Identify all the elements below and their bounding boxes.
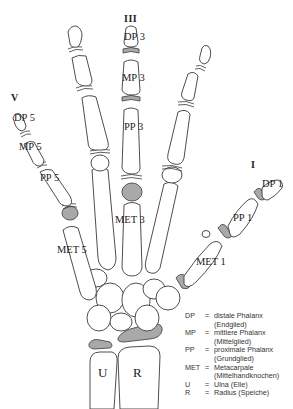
legend-abbr: PP (185, 346, 205, 363)
label-mp5: MP 5 (19, 141, 42, 152)
mp2-bone (182, 72, 199, 100)
dp2-bone (200, 45, 211, 64)
legend-equals: = (205, 312, 214, 329)
legend-text: Radius (Speiche) (214, 389, 293, 398)
met5-bone (63, 226, 96, 300)
label-dp1: DP 1 (262, 178, 283, 189)
numeral-little-finger: V (11, 92, 19, 103)
label-pp3: PP 3 (124, 121, 143, 132)
label-met3: MET 3 (115, 214, 145, 225)
label-dp3: DP 3 (124, 31, 145, 42)
legend-equals: = (205, 364, 214, 381)
legend-row-pp: PP = proximale Phalanx (Grundglied) (185, 346, 293, 363)
label-met5: MET 5 (57, 244, 87, 255)
pp3-bone (122, 108, 140, 174)
label-radius: R (133, 365, 142, 380)
finger-1 (176, 180, 283, 289)
legend-equals: = (205, 329, 214, 346)
met2-bone (145, 182, 178, 273)
label-ulna: U (98, 365, 108, 380)
met4-bone (92, 167, 116, 270)
legend-abbr: R (185, 389, 205, 398)
legend-row-mp: MP = mittlere Phalanx (Mittelglied) (185, 329, 293, 346)
label-dp5: DP 5 (14, 112, 35, 123)
numeral-thumb: I (251, 159, 255, 170)
legend: DP = distale Phalanx (Endglied) MP = mit… (185, 312, 293, 398)
pp3-epiphysis-plate (122, 96, 140, 102)
carpal-bones (85, 269, 180, 331)
mp3-epiphysis-plate (123, 48, 139, 54)
finger-3 (121, 26, 142, 276)
legend-abbr: MET (185, 364, 205, 381)
legend-abbr: DP (185, 312, 205, 329)
label-met1: MET 1 (196, 256, 226, 267)
label-pp1: PP 1 (233, 212, 252, 223)
numeral-middle-finger: III (124, 13, 137, 24)
met3-head-plate (122, 183, 142, 201)
mp4-bone (72, 55, 92, 86)
legend-equals: = (205, 389, 214, 398)
legend-equals: = (205, 346, 214, 363)
finger-2 (145, 45, 210, 273)
ulna-epiphysis-plate (89, 340, 112, 350)
legend-abbr: MP (185, 329, 205, 346)
dp4-bone (68, 26, 82, 47)
label-mp3: MP 3 (122, 72, 145, 83)
legend-row-met: MET = Metacarpale (Mittelhandknochen) (185, 364, 293, 381)
legend-row-r: R = Radius (Speiche) (185, 389, 293, 398)
legend-row-dp: DP = distale Phalanx (Endglied) (185, 312, 293, 329)
pp4-bone (82, 96, 108, 150)
label-pp5: PP 5 (40, 172, 59, 183)
pp2-bone (168, 110, 190, 164)
